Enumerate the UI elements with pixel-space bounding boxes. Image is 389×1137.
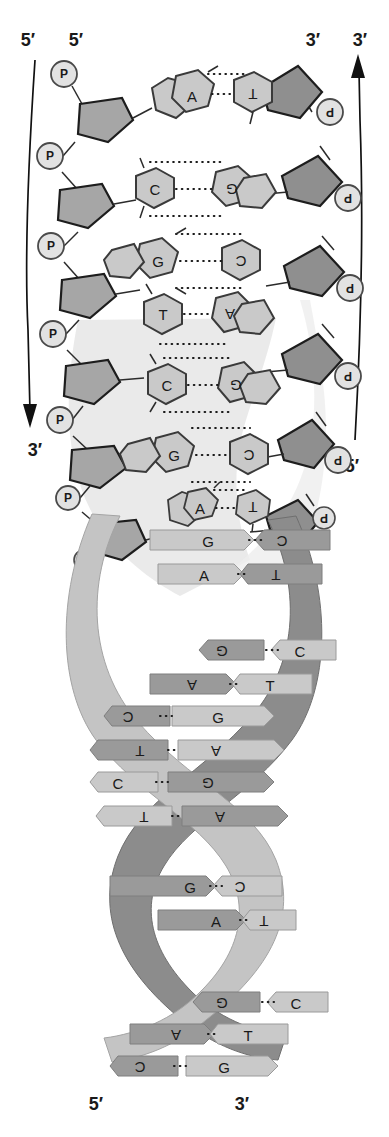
base-letter: C: [291, 995, 302, 1012]
base-letter: G: [216, 995, 228, 1012]
phosphate-label: P: [60, 67, 68, 81]
base-letter: G: [226, 181, 238, 198]
base-letter: G: [212, 709, 224, 726]
label-bottom-right: 3′: [235, 1094, 249, 1114]
base-letter: T: [265, 677, 274, 694]
dna-diagram: 5′ 3′ 3′ 5′ 5′ 3′: [0, 0, 389, 1137]
base-letter: G: [230, 377, 242, 394]
helix-rung: G C: [150, 530, 330, 550]
svg-text:P: P: [346, 281, 354, 295]
base-letter: G: [218, 1059, 230, 1076]
base-letter: A: [211, 913, 221, 930]
base-letter: C: [162, 377, 173, 394]
base-letter: C: [122, 709, 133, 726]
label-mid-left-arrow-end: 3′: [28, 440, 42, 460]
svg-text:P: P: [49, 327, 57, 341]
helix-rung: C G: [110, 1056, 278, 1076]
base-letter: G: [168, 447, 180, 464]
base-letter: T: [158, 306, 167, 323]
base-letter: A: [199, 567, 209, 584]
svg-text:P: P: [47, 239, 55, 253]
svg-text:P: P: [320, 511, 328, 525]
helix-rung: T A: [96, 806, 288, 826]
svg-text:P: P: [326, 105, 334, 119]
helix-rung: C G: [90, 772, 274, 792]
base-letter: G: [184, 879, 196, 896]
base-letter: C: [276, 533, 287, 550]
base-letter: G: [202, 775, 214, 792]
base-letter: G: [216, 643, 228, 660]
base-letter: A: [215, 809, 225, 826]
base-letter: A: [171, 1027, 181, 1044]
base-letter: T: [135, 743, 144, 760]
helix-rung: C G: [104, 706, 274, 726]
label-bottom-left: 5′: [89, 1094, 103, 1114]
dna-figure-svg: 5′ 3′ 3′ 5′ 5′ 3′: [0, 0, 389, 1137]
base-letter: C: [134, 1059, 145, 1076]
base-letter: G: [152, 253, 164, 270]
helix-rung: G C: [193, 992, 328, 1012]
helix-rung: G C: [110, 876, 282, 896]
label-top-right-outer: 3′: [353, 30, 367, 50]
helix-rung: A T: [158, 910, 296, 930]
base-letter: T: [271, 567, 280, 584]
base-letter: T: [139, 809, 148, 826]
base-letter: A: [211, 743, 221, 760]
helix-rung: T A: [90, 740, 284, 760]
base-letter: G: [202, 533, 214, 550]
base-letter: A: [225, 306, 235, 323]
base-letter: T: [259, 913, 268, 930]
svg-text:P: P: [334, 453, 342, 467]
base-letter: C: [234, 879, 245, 896]
base-letter: A: [187, 88, 197, 105]
base-letter: T: [243, 1027, 252, 1044]
base-letter: T: [248, 86, 257, 103]
base-letter: C: [150, 181, 161, 198]
base-letter: A: [195, 500, 205, 517]
base-letter: C: [243, 447, 254, 464]
base-letter: A: [187, 677, 197, 694]
svg-text:P: P: [64, 491, 72, 505]
label-top-left-outer: 5′: [21, 30, 35, 50]
label-top-left-inner: 5′: [69, 30, 83, 50]
base-letter: C: [113, 775, 124, 792]
base-letter: C: [235, 253, 246, 270]
base-letter: T: [248, 499, 257, 516]
svg-text:P: P: [344, 369, 352, 383]
svg-text:P: P: [344, 191, 352, 205]
label-top-right-inner: 3′: [306, 30, 320, 50]
svg-text:P: P: [46, 149, 54, 163]
base-letter: C: [295, 643, 306, 660]
svg-text:P: P: [56, 413, 64, 427]
